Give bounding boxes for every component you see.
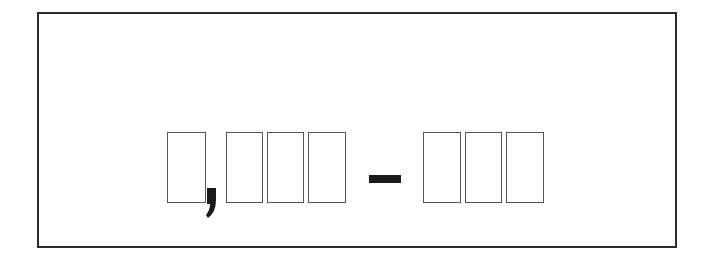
dash-glyph: [369, 175, 401, 183]
comma-glyph: [205, 188, 217, 218]
missing-glyph-box: [167, 132, 206, 203]
missing-glyph-box: [423, 132, 461, 203]
missing-glyph-box: [465, 132, 502, 203]
missing-glyph-box: [226, 132, 263, 203]
missing-glyph-box: [267, 132, 304, 203]
missing-glyph-box: [506, 132, 544, 203]
display-frame: [37, 12, 677, 248]
missing-glyph-box: [308, 132, 346, 203]
